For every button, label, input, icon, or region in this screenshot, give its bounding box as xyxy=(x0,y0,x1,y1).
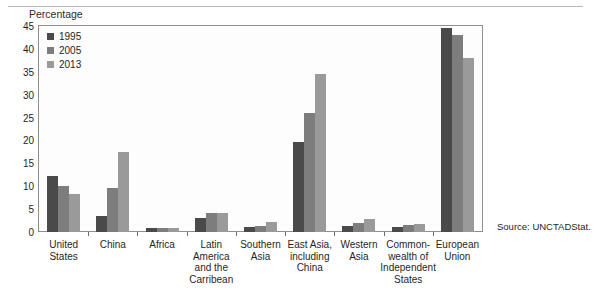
bar xyxy=(266,222,277,232)
plot-area xyxy=(39,26,482,232)
x-axis-category-label: EuropeanUnion xyxy=(424,239,491,262)
bar xyxy=(364,219,375,232)
y-axis-tick-label: 0 xyxy=(8,227,34,238)
bar xyxy=(304,113,315,232)
y-axis-tick-label: 35 xyxy=(8,66,34,77)
bar xyxy=(69,194,80,232)
x-axis-tick-mark xyxy=(88,232,89,236)
bar xyxy=(463,58,474,232)
page-top-ghost-text xyxy=(30,0,230,6)
bar xyxy=(293,142,304,232)
x-axis-category-label-line: Independent xyxy=(375,262,442,274)
chart-legend: 199520052013 xyxy=(47,30,81,72)
bar-group xyxy=(334,26,383,232)
bar xyxy=(255,226,266,232)
legend-item-label: 2013 xyxy=(59,59,81,70)
bar-group xyxy=(187,26,236,232)
bar xyxy=(58,186,69,232)
legend-swatch-icon xyxy=(47,61,54,68)
bar xyxy=(441,28,452,232)
bar-group xyxy=(433,26,482,232)
x-axis-tick-mark xyxy=(334,232,335,236)
y-axis-tick-label: 10 xyxy=(8,181,34,192)
bar xyxy=(403,225,414,232)
bar xyxy=(195,218,206,232)
bar xyxy=(392,227,403,232)
bar xyxy=(96,216,107,232)
legend-item: 2005 xyxy=(47,44,81,57)
x-axis-category-label-line: China xyxy=(276,262,343,274)
y-axis-tick-label: 20 xyxy=(8,135,34,146)
x-axis-tick-mark xyxy=(285,232,286,236)
x-axis-tick-mark xyxy=(236,232,237,236)
bar-group xyxy=(384,26,433,232)
bar xyxy=(146,228,157,232)
x-axis-tick-mark xyxy=(187,232,188,236)
bar-group xyxy=(236,26,285,232)
legend-item-label: 2005 xyxy=(59,45,81,56)
x-axis-category-label-line: and the xyxy=(178,262,245,274)
source-note: Source: UNCTADStat. xyxy=(497,221,591,232)
bar xyxy=(315,74,326,232)
bar xyxy=(244,227,255,232)
bar-group xyxy=(137,26,186,232)
x-axis-category-label-line: Carribean xyxy=(178,274,245,286)
y-axis-tick-label: 45 xyxy=(8,21,34,32)
legend-item: 1995 xyxy=(47,30,81,43)
bar xyxy=(157,228,168,232)
y-axis-tick-label: 5 xyxy=(8,204,34,215)
bar xyxy=(168,228,179,232)
bar xyxy=(118,152,129,232)
bar-group xyxy=(88,26,137,232)
y-axis-tick-label: 40 xyxy=(8,43,34,54)
legend-item-label: 1995 xyxy=(59,31,81,42)
bar xyxy=(414,224,425,232)
x-axis-tick-mark xyxy=(384,232,385,236)
bar xyxy=(47,176,58,232)
bar xyxy=(217,213,228,232)
y-axis-tick-label: 15 xyxy=(8,158,34,169)
legend-swatch-icon xyxy=(47,33,54,40)
legend-swatch-icon xyxy=(47,47,54,54)
y-axis-title: Percentage xyxy=(29,8,83,20)
bar-group xyxy=(285,26,334,232)
x-axis-tick-mark xyxy=(433,232,434,236)
legend-item: 2013 xyxy=(47,58,81,71)
bar xyxy=(206,213,217,232)
bar xyxy=(353,223,364,232)
bar xyxy=(342,226,353,232)
bar xyxy=(452,35,463,232)
page-top-rule xyxy=(8,6,583,7)
x-axis-category-label-line: States xyxy=(30,251,97,263)
bar xyxy=(107,188,118,232)
x-axis-tick-mark xyxy=(137,232,138,236)
x-axis-category-label-line: European xyxy=(424,239,491,251)
y-axis-tick-label: 30 xyxy=(8,89,34,100)
x-axis-category-label-line: Union xyxy=(424,251,491,263)
y-axis-tick-label: 25 xyxy=(8,112,34,123)
x-axis-category-label-line: States xyxy=(375,274,442,286)
